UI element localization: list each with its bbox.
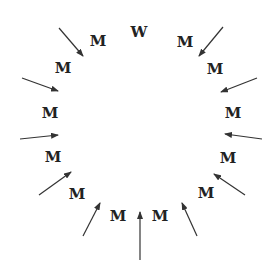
arrow-icon xyxy=(221,78,257,92)
letter-w: W xyxy=(130,23,149,41)
letter-m: M xyxy=(177,33,194,51)
arrow-icon xyxy=(83,203,100,236)
letter-m: M xyxy=(42,104,59,122)
arrow-icon xyxy=(214,174,245,195)
arrow-icon xyxy=(225,134,262,139)
arrow-icon xyxy=(59,28,83,56)
arrow-icon xyxy=(22,78,58,91)
letter-m: M xyxy=(225,104,242,122)
arrow-icon xyxy=(39,172,71,195)
arrow-icon xyxy=(182,203,197,236)
letter-m: M xyxy=(198,184,215,202)
letter-circle-diagram: WMMMMMMMMMMMM xyxy=(0,0,274,271)
letter-m: M xyxy=(207,60,224,78)
letter-m: M xyxy=(220,149,237,167)
letter-m: M xyxy=(90,32,107,50)
letter-m: M xyxy=(45,148,62,166)
letter-m: M xyxy=(152,207,169,225)
letter-group: WMMMMMMMMMMMM xyxy=(42,23,242,225)
letter-m: M xyxy=(55,59,72,77)
letter-m: M xyxy=(110,207,127,225)
arrow-icon xyxy=(199,27,223,56)
letter-m: M xyxy=(69,185,86,203)
arrow-icon xyxy=(20,135,58,139)
